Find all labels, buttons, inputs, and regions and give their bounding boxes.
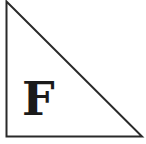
diagram-canvas: F: [0, 0, 146, 144]
triangle-label: F: [22, 76, 55, 122]
